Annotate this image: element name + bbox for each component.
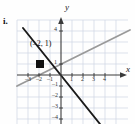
x-axis-label: x: [126, 64, 130, 74]
x-tick-label-3: 3: [92, 76, 95, 82]
figure-panel: i.: [0, 0, 135, 124]
point-coordinate-label: (–2, 1): [30, 39, 51, 48]
y-tick-label-neg1: –1: [52, 81, 58, 87]
x-tick-label-4: 4: [103, 76, 106, 82]
x-tick-label-neg3: –3: [25, 76, 31, 82]
coordinate-plane-graph: [0, 0, 135, 124]
y-tick-label-neg2: –2: [52, 92, 58, 98]
grid-lines: [17, 20, 128, 124]
y-tick-label-neg4: –4: [52, 114, 58, 120]
y-tick-label-1: 1: [54, 59, 57, 65]
x-tick-label-1: 1: [70, 76, 73, 82]
x-tick-label-neg2: –2: [36, 76, 42, 82]
x-tick-label-2: 2: [81, 76, 84, 82]
y-tick-label-4: 4: [54, 26, 57, 32]
y-axis-label: y: [65, 2, 69, 12]
y-tick-label-neg3: –3: [52, 103, 58, 109]
intersection-point-marker: [36, 60, 44, 68]
